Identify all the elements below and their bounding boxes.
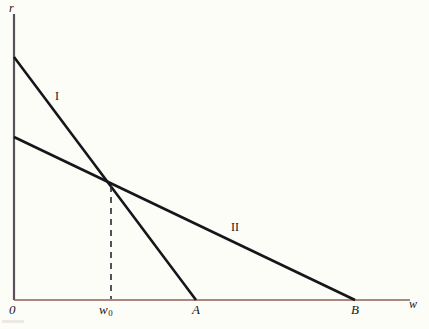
point-b-label: B <box>351 303 359 316</box>
point-a-label: A <box>192 303 200 316</box>
figure-root: r w 0 w0 A B I II <box>0 0 429 329</box>
scan-artifact <box>2 320 24 323</box>
w0-tick-base: w <box>99 302 108 317</box>
w0-tick-subscript: 0 <box>108 308 112 318</box>
origin-label: 0 <box>9 303 16 316</box>
series-label-2: II <box>231 221 239 233</box>
series-line-1 <box>14 57 196 300</box>
series-label-1: I <box>55 90 59 102</box>
line-chart-canvas <box>0 0 429 329</box>
x-axis-label: w <box>409 298 417 310</box>
w0-tick-label: w0 <box>99 303 112 316</box>
y-axis-label: r <box>9 2 14 14</box>
series-line-2 <box>14 137 355 300</box>
